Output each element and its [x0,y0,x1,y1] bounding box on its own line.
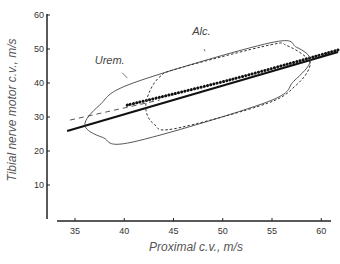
y-tick-label: 60 [34,10,44,20]
x-tick-label: 45 [168,226,178,236]
annotation-pointer [204,49,205,51]
chart: 102030405060354045505560 Urem.Alc. Proxi… [0,0,340,264]
x-axis-label: Proximal c.v., m/s [149,240,243,254]
axes: 102030405060354045505560 [34,10,331,236]
plot-area: Urem.Alc. [67,25,338,144]
x-tick-label: 50 [218,226,228,236]
x-tick-label: 40 [119,226,129,236]
y-tick-label: 40 [34,78,44,88]
series-alc-envelope [146,43,311,130]
annotation-label: Urem. [95,54,125,66]
x-tick-label: 60 [316,226,326,236]
y-tick-label: 10 [34,180,44,190]
y-tick-label: 50 [34,44,44,54]
y-tick-label: 20 [34,146,44,156]
x-tick-label: 35 [70,226,80,236]
annotation-pointer [122,73,127,78]
y-axis-label: Tibial nerve motor c.v., m/s [5,38,19,181]
y-tick-label: 30 [34,112,44,122]
annotation-label: Alc. [191,25,210,37]
x-tick-label: 55 [267,226,277,236]
